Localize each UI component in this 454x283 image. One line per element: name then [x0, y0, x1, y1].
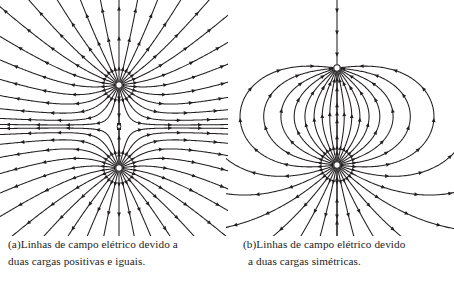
opposite-charges-field-diagram: [226, 0, 454, 236]
caption-b-line-1: (b)Linhas de campo elétrico devido: [243, 238, 405, 250]
caption-a-line-2: duas cargas positivas e iguais.: [8, 253, 220, 270]
caption-b-line-2: a duas cargas simétricas.: [243, 253, 448, 270]
figure-page: (a)Linhas de campo elétrico devido a dua…: [0, 0, 454, 283]
field-lines-canvas-a: [0, 0, 228, 236]
caption-a: (a)Linhas de campo elétrico devido a dua…: [8, 236, 220, 269]
like-charges-field-diagram: [0, 0, 228, 236]
field-lines-canvas-b: [226, 0, 454, 236]
caption-a-line-1: (a)Linhas de campo elétrico devido a: [8, 238, 178, 250]
caption-b: (b)Linhas de campo elétrico devido a dua…: [243, 236, 448, 269]
